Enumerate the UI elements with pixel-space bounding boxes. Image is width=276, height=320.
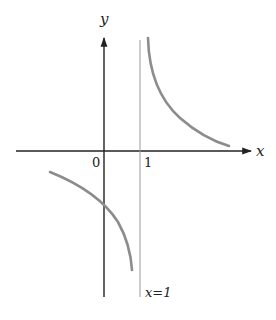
curve-left-branch bbox=[50, 172, 132, 270]
curve-right-branch bbox=[148, 38, 229, 146]
origin-label: 0 bbox=[92, 155, 100, 170]
x-axis-label: x bbox=[256, 142, 265, 160]
asymptote-label: x=1 bbox=[145, 285, 172, 300]
y-axis-label: y bbox=[99, 10, 109, 28]
graph-canvas: y x 0 1 x=1 bbox=[0, 0, 276, 320]
tick-label-1: 1 bbox=[144, 155, 152, 170]
